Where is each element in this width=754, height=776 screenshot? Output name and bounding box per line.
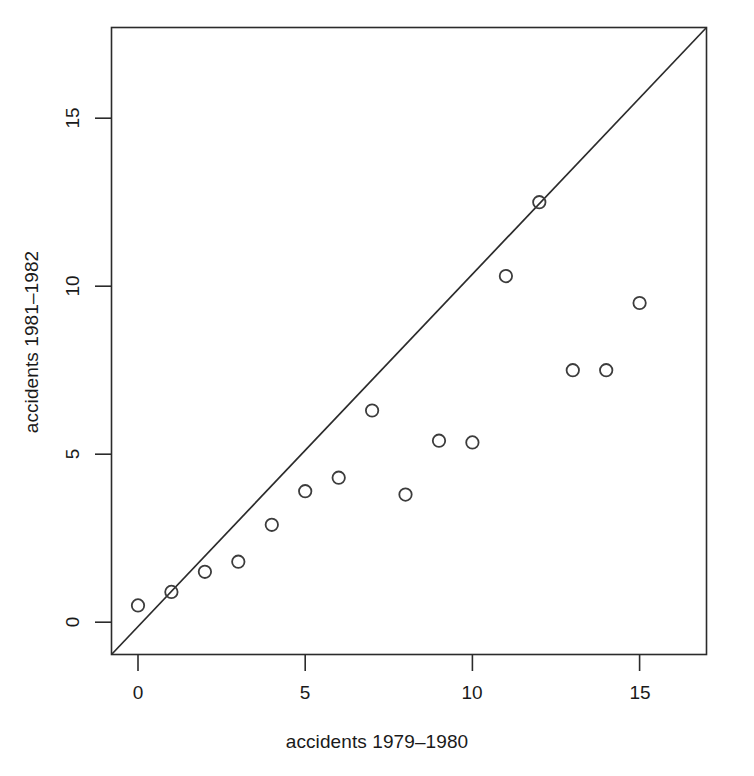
data-point	[600, 364, 612, 376]
data-point	[633, 297, 645, 309]
x-axis-ticks	[138, 655, 640, 671]
data-point	[232, 556, 244, 568]
y-axis-title-wrapper: accidents 1981–1982	[0, 0, 64, 684]
data-point	[299, 485, 311, 497]
data-point	[567, 364, 579, 376]
data-point	[500, 270, 512, 282]
data-points	[132, 196, 646, 612]
x-tick-label-10: 10	[461, 682, 482, 704]
y-tick-label-0: 0	[62, 617, 84, 628]
y-axis-title: accidents 1981–1982	[21, 251, 43, 434]
data-point	[366, 404, 378, 416]
y-tick-label-15: 15	[62, 107, 84, 128]
y-tick-label-10: 10	[62, 275, 84, 296]
identity-reference-line	[112, 28, 707, 655]
plot-canvas	[0, 0, 754, 776]
scatter-plot-figure: 0 5 10 15 0 5 10 15 accidents 1979–1980 …	[0, 0, 754, 776]
x-tick-label-5: 5	[300, 682, 311, 704]
data-point	[399, 488, 411, 500]
y-axis-ticks	[95, 118, 111, 622]
x-axis-title: accidents 1979–1980	[0, 731, 754, 753]
data-point	[333, 472, 345, 484]
x-tick-label-15: 15	[629, 682, 650, 704]
y-tick-label-5: 5	[62, 449, 84, 460]
data-point	[266, 519, 278, 531]
x-tick-label-0: 0	[133, 682, 144, 704]
data-point	[533, 196, 545, 208]
data-point	[466, 436, 478, 448]
data-point	[199, 566, 211, 578]
data-point	[433, 435, 445, 447]
data-point	[132, 599, 144, 611]
